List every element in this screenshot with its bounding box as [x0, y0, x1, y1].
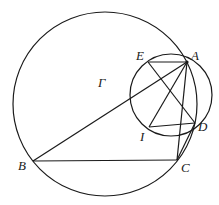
segment-ID	[149, 123, 195, 127]
point-A-dot	[185, 60, 188, 63]
label-I: I	[139, 129, 145, 144]
segment-AB	[33, 62, 187, 161]
label-gamma: Γ	[97, 75, 106, 90]
geometry-diagram: A E Γ I D C B	[0, 0, 219, 205]
label-C: C	[181, 160, 190, 175]
label-B: B	[18, 158, 26, 173]
circle-gamma	[13, 12, 197, 196]
label-A: A	[190, 48, 199, 63]
segment-BC	[33, 160, 177, 161]
segment-ED	[148, 62, 195, 123]
label-D: D	[197, 119, 208, 134]
label-E: E	[135, 48, 144, 63]
